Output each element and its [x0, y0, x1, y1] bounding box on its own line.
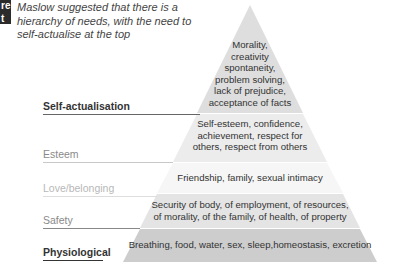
level-line-esteem	[43, 162, 173, 163]
love-belonging-description: Friendship, family, sexual intimacy	[160, 172, 340, 184]
esteem-description: Self-esteem, confidence, achievement, re…	[175, 118, 325, 153]
level-label-love-belonging: Love/belonging	[43, 182, 114, 196]
safety-description: Security of body, of employment, of reso…	[140, 199, 360, 222]
self-actualisation-description: Morality, creativity spontaneity, proble…	[200, 39, 300, 109]
level-line-love-belonging	[43, 196, 157, 197]
level-label-safety: Safety	[43, 214, 73, 228]
physiological-description: Breathing, food, water, sex, sleep,homeo…	[125, 239, 375, 251]
level-line-safety	[43, 228, 140, 229]
level-label-self-actualisation: Self-actualisation	[43, 100, 130, 114]
level-line-physiological	[43, 260, 103, 261]
level-label-esteem: Esteem	[43, 148, 79, 162]
level-line-self-actualisation	[43, 114, 200, 115]
level-label-physiological: Physiological	[43, 246, 111, 260]
